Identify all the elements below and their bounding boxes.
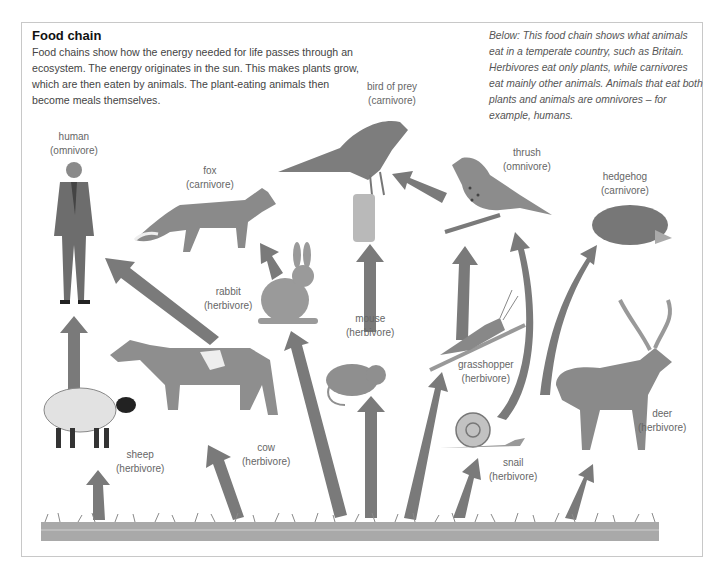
label-snail-type: (herbivore)	[489, 470, 537, 484]
label-deer: deer (herbivore)	[638, 407, 686, 435]
label-rabbit-name: rabbit	[204, 285, 252, 299]
label-mouse: mouse (herbivore)	[346, 312, 394, 340]
label-hedgehog-type: (carnivore)	[601, 184, 649, 198]
arrow-grass-to-mouse	[357, 396, 385, 518]
arrow-grass-to-snail	[453, 458, 481, 518]
label-grasshopper: grasshopper (herbivore)	[458, 358, 514, 386]
arrow-grass-to-deer	[565, 464, 594, 520]
label-fox-type: (carnivore)	[186, 178, 234, 192]
label-grasshopper-name: grasshopper	[458, 358, 514, 372]
label-fox-name: fox	[186, 164, 234, 178]
label-bird-of-prey-type: (carnivore)	[367, 94, 417, 108]
label-bird-of-prey: bird of prey (carnivore)	[367, 80, 417, 108]
label-rabbit: rabbit (herbivore)	[204, 285, 252, 313]
label-human: human (omnivore)	[50, 130, 98, 158]
arrow-grass-to-rabbit	[284, 331, 347, 518]
arrow-grasshopper-to-thrush	[452, 246, 478, 340]
label-cow: cow (herbivore)	[242, 441, 290, 469]
label-fox: fox (carnivore)	[186, 164, 234, 192]
label-mouse-type: (herbivore)	[346, 326, 394, 340]
label-thrush-type: (omnivore)	[503, 160, 551, 174]
hedgehog-illustration	[592, 205, 672, 245]
label-snail-name: snail	[489, 456, 537, 470]
label-sheep-type: (herbivore)	[116, 462, 164, 476]
label-sheep: sheep (herbivore)	[116, 448, 164, 476]
label-cow-type: (herbivore)	[242, 455, 290, 469]
arrow-thrush-to-bird	[392, 171, 447, 203]
label-sheep-name: sheep	[116, 448, 164, 462]
arrow-cow-to-human	[105, 258, 219, 345]
fox-illustration	[135, 188, 276, 252]
label-snail: snail (herbivore)	[489, 456, 537, 484]
bird-of-prey-illustration	[278, 121, 408, 242]
mouse-illustration	[326, 364, 386, 405]
label-mouse-name: mouse	[346, 312, 394, 326]
arrow-grass-to-grasshopper	[404, 372, 448, 520]
arrow-rabbit-to-fox	[260, 243, 283, 280]
food-chain-artwork	[0, 0, 724, 568]
label-cow-name: cow	[242, 441, 290, 455]
label-thrush: thrush (omnivore)	[503, 146, 551, 174]
label-deer-type: (herbivore)	[638, 421, 686, 435]
arrow-grass-to-sheep	[86, 470, 110, 520]
sheep-illustration	[44, 388, 136, 448]
arrow-grass-to-cow	[206, 445, 244, 520]
label-grasshopper-type: (herbivore)	[458, 372, 514, 386]
label-hedgehog: hedgehog (carnivore)	[601, 170, 649, 198]
human-illustration	[54, 162, 94, 304]
label-rabbit-type: (herbivore)	[204, 299, 252, 313]
label-bird-of-prey-name: bird of prey	[367, 80, 417, 94]
label-thrush-name: thrush	[503, 146, 551, 160]
label-human-type: (omnivore)	[50, 144, 98, 158]
snail-illustration	[440, 413, 525, 448]
label-hedgehog-name: hedgehog	[601, 170, 649, 184]
label-deer-name: deer	[638, 407, 686, 421]
label-human-name: human	[50, 130, 98, 144]
